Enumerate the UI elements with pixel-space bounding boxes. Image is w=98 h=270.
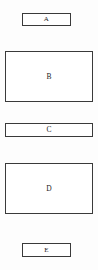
diagram-box-e[interactable]: E bbox=[22, 243, 71, 257]
diagram-box-a-label: A bbox=[44, 16, 49, 23]
diagram-box-d[interactable]: D bbox=[5, 163, 93, 214]
diagram-box-a[interactable]: A bbox=[22, 13, 71, 26]
diagram-box-c-label: C bbox=[46, 126, 51, 134]
diagram-box-b-label: B bbox=[46, 73, 51, 81]
diagram-box-d-label: D bbox=[46, 185, 52, 193]
diagram-box-b[interactable]: B bbox=[5, 51, 93, 102]
diagram-canvas: A B C D E bbox=[0, 0, 98, 270]
diagram-box-e-label: E bbox=[44, 247, 48, 254]
diagram-box-c[interactable]: C bbox=[5, 123, 93, 137]
